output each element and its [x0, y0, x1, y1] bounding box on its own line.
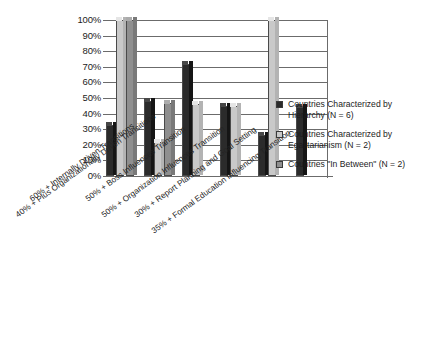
- legend-item: Countries Characterized by Egalitarianis…: [276, 129, 442, 150]
- x-axis-category-labels: 60% + Internally Driven Transitions40% +…: [0, 0, 442, 361]
- legend-label: Countries Characterized by Egalitarianis…: [288, 129, 392, 150]
- legend-label: Countries Characterized by Hierarchy (N …: [288, 99, 392, 120]
- chart-canvas: 100%90%80%70%60%50%40%30%20%10%0% 60% + …: [0, 0, 442, 361]
- legend-label: Countries "In Between" (N = 2): [288, 159, 405, 170]
- legend-swatch-in-between: [276, 161, 283, 168]
- legend-item: Countries Characterized by Hierarchy (N …: [276, 99, 442, 120]
- legend-item: Countries "In Between" (N = 2): [276, 159, 442, 170]
- chart-legend: Countries Characterized by Hierarchy (N …: [276, 99, 442, 179]
- legend-swatch-hierarchy: [276, 101, 283, 108]
- legend-swatch-egalitarianism: [276, 131, 283, 138]
- plot-area: 100%90%80%70%60%50%40%30%20%10%0% 60% + …: [0, 0, 442, 361]
- x-axis-label: 35% + Formal Education Influencing Trans…: [150, 128, 292, 235]
